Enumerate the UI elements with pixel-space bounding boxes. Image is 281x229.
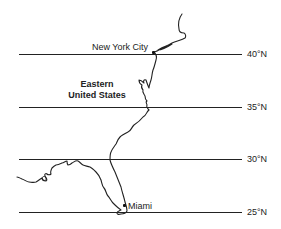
latitude-line-30n <box>19 159 242 160</box>
latitude-line-40n <box>19 54 242 55</box>
city-marker-new-york <box>152 51 155 54</box>
city-marker-miami <box>123 204 126 207</box>
latitude-label-40n: 40°N <box>247 49 267 59</box>
latitude-label-30n: 30°N <box>247 154 267 164</box>
city-label-miami: Miami <box>128 201 152 211</box>
latitude-line-25n <box>19 212 242 213</box>
region-label: Eastern United States <box>66 79 128 101</box>
region-label-line2: United States <box>66 90 128 101</box>
latitude-label-35n: 35°N <box>247 102 267 112</box>
city-label-new-york: New York City <box>92 42 148 52</box>
coastline-outline <box>0 0 281 229</box>
map-figure: 40°N 35°N 30°N 25°N New York City Miami … <box>0 0 281 229</box>
latitude-label-25n: 25°N <box>247 207 267 217</box>
latitude-line-35n <box>19 107 242 108</box>
region-label-line1: Eastern <box>66 79 128 90</box>
